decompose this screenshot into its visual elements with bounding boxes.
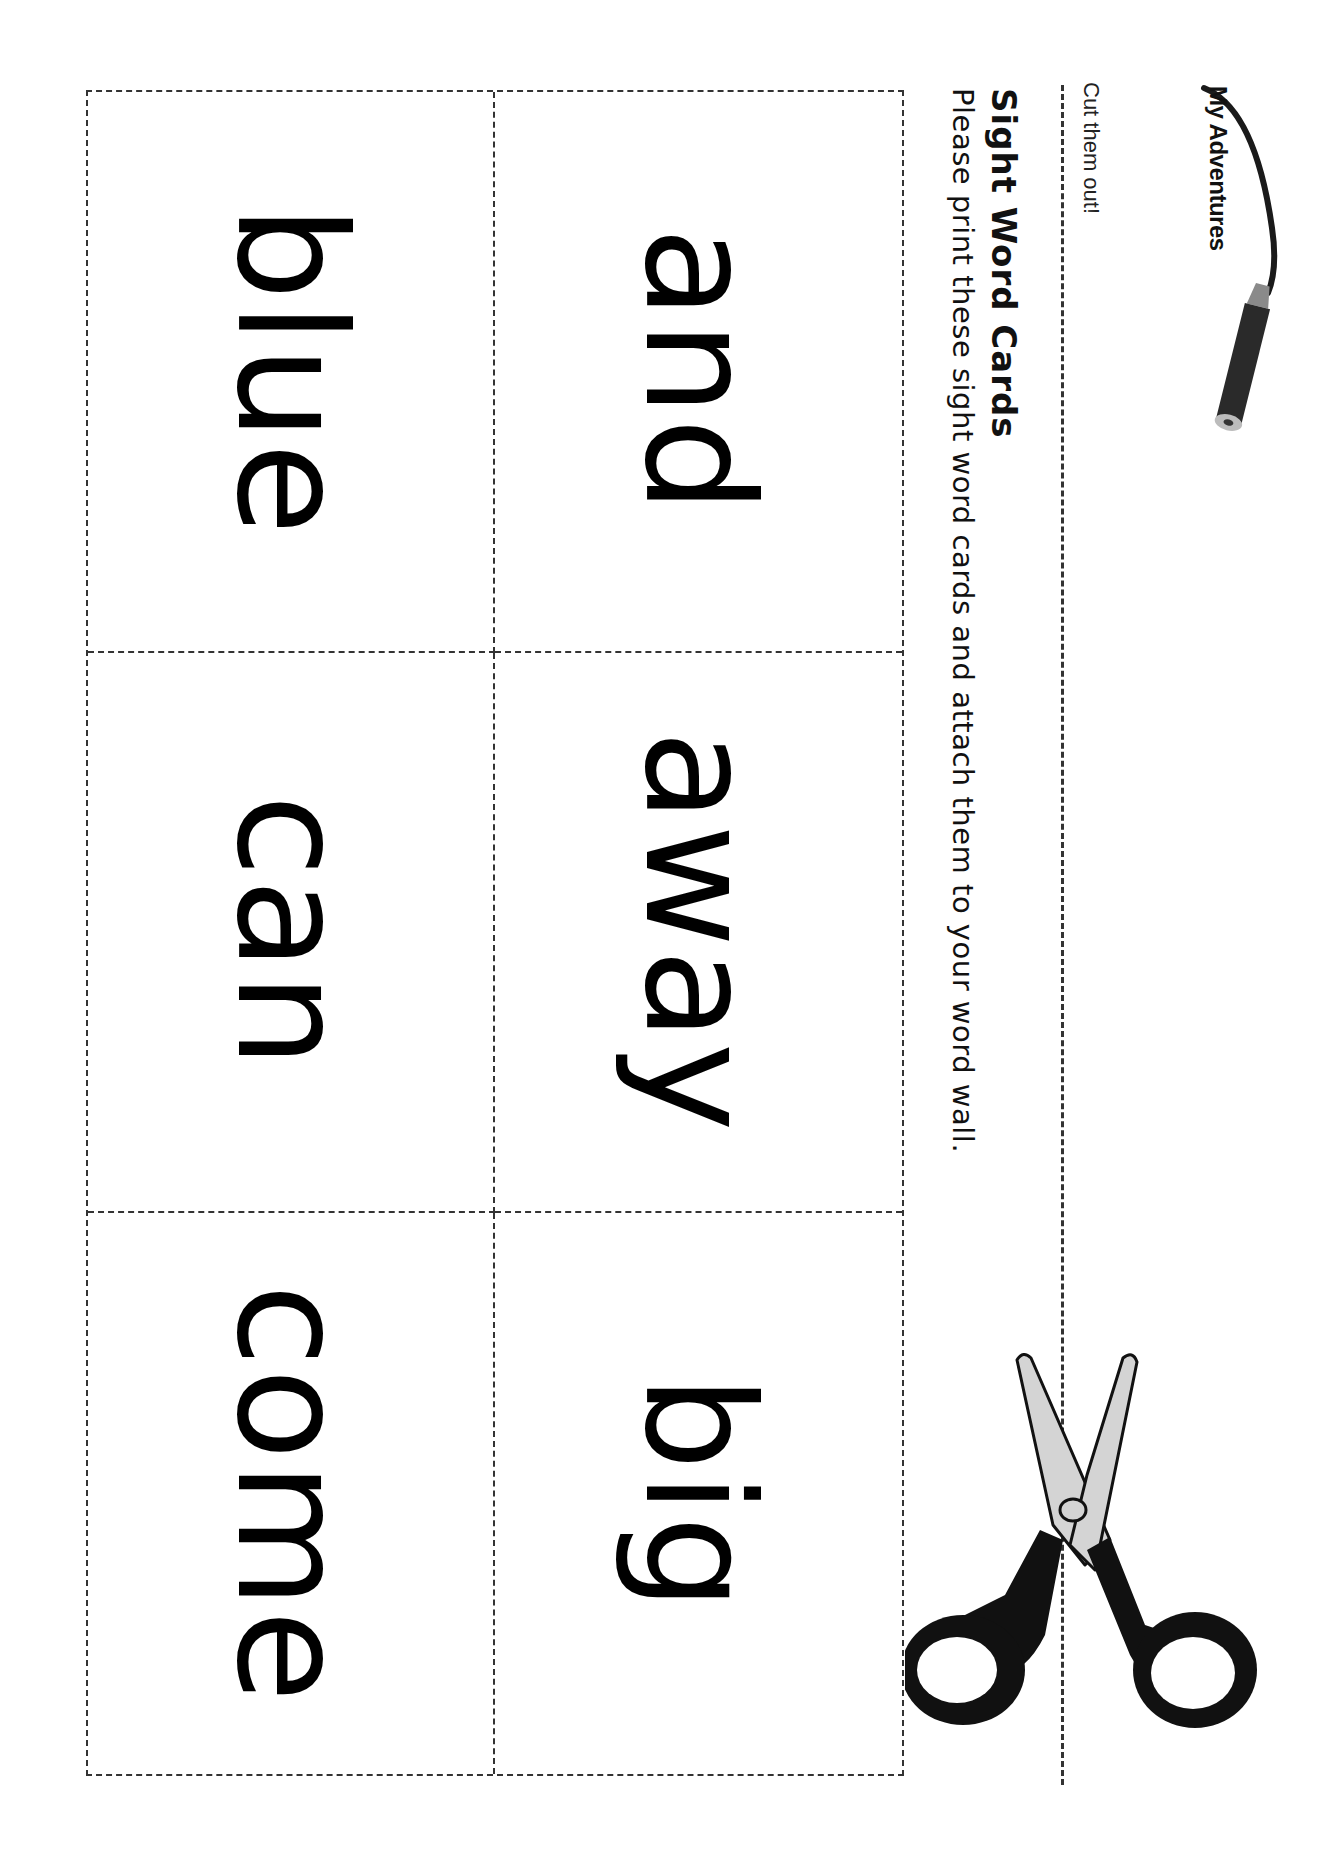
card-word: and (624, 227, 774, 515)
word-card-and: and (495, 92, 902, 653)
page-title: Sight Word Cards (984, 88, 1024, 439)
word-card-away: away (495, 653, 902, 1214)
scissors-illustration (905, 1225, 1315, 1780)
scissors-icon (905, 1225, 1315, 1780)
brand-logo-text: My Adventures (1204, 86, 1232, 251)
card-word: big (624, 1375, 774, 1613)
sight-word-card-grid: blue and can away come big (86, 90, 904, 1776)
instructions-text: Please print these sight word cards and … (946, 88, 980, 1153)
card-word: can (216, 794, 366, 1069)
word-card-come: come (88, 1213, 495, 1774)
card-word: blue (216, 205, 366, 537)
card-word: come (216, 1283, 366, 1704)
word-card-big: big (495, 1213, 902, 1774)
cut-label: Cut them out! (1078, 82, 1104, 214)
card-word: away (624, 730, 774, 1133)
word-card-can: can (88, 653, 495, 1214)
word-card-blue: blue (88, 92, 495, 653)
